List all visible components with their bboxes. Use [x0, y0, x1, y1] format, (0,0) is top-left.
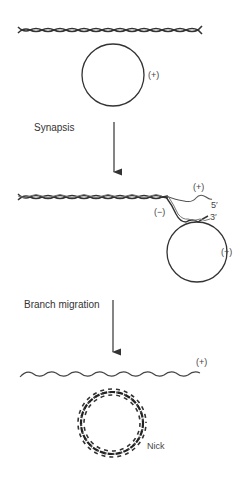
synapsed-circle	[167, 222, 227, 282]
nick-label: Nick	[147, 442, 165, 451]
three-prime-label: 3′	[210, 213, 217, 222]
recombination-diagram	[0, 0, 246, 478]
linear-duplex-helix	[18, 26, 202, 34]
linear-strand-plus-label: (+)	[196, 358, 207, 367]
ss-circle-plus	[82, 44, 144, 106]
displaced-linear-strand	[20, 372, 200, 377]
displaced-strand-plus-label: (+)	[193, 183, 204, 192]
synapsis-label: Synapsis	[34, 123, 75, 133]
branch-migration-label: Branch migration	[24, 300, 100, 310]
displaced-plus-strand	[166, 195, 212, 201]
synapsed-circle-plus-label: (+)	[221, 248, 232, 257]
invading-strand-inner	[168, 196, 210, 221]
circle-plus-label: (+)	[148, 71, 159, 80]
minus-strand-label: (−)	[154, 208, 165, 217]
nicked-duplex-circle	[78, 389, 146, 457]
invading-strands	[166, 197, 208, 222]
five-prime-label: 5′	[211, 201, 218, 210]
synapsed-duplex-helix	[18, 194, 168, 200]
